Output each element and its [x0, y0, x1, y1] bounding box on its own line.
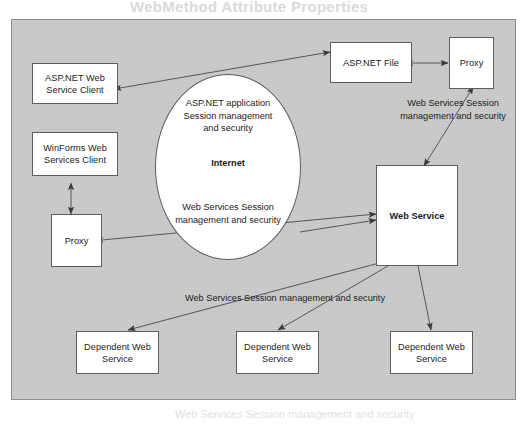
- edge-internet-webservice: [300, 220, 376, 232]
- node-proxy-left[interactable]: Proxy: [51, 214, 102, 267]
- node-proxy-right[interactable]: Proxy: [449, 37, 494, 89]
- scanned-page: WebMethod Attribute Properties: [0, 0, 531, 426]
- internet-cloud: ASP.NET application Session management a…: [155, 74, 301, 260]
- internet-center-label: Internet: [156, 157, 300, 170]
- page-bottom-bleed-through: Web Services Session management and secu…: [0, 404, 531, 426]
- edge-proxyright-webservice: [424, 92, 470, 166]
- node-dependent-web-service-1[interactable]: Dependent Web Service: [76, 331, 159, 374]
- node-web-service[interactable]: Web Service: [376, 165, 458, 266]
- node-aspnet-web-service-client[interactable]: ASP.NET Web Service Client: [32, 63, 118, 104]
- edge-webservice-dependent-3: [418, 266, 431, 330]
- bottom-ghost-text: Web Services Session management and secu…: [175, 408, 414, 420]
- internet-top-label: ASP.NET application Session management a…: [156, 97, 300, 135]
- node-dependent-web-service-3[interactable]: Dependent Web Service: [390, 331, 473, 374]
- edge-webservice-dependent-1: [128, 262, 383, 330]
- node-aspnet-file[interactable]: ASP.NET File: [330, 42, 412, 83]
- node-dependent-web-service-2[interactable]: Dependent Web Service: [236, 331, 319, 374]
- internet-bottom-label: Web Services Session management and secu…: [156, 201, 300, 226]
- node-winforms-web-services-client[interactable]: WinForms Web Services Client: [32, 132, 118, 176]
